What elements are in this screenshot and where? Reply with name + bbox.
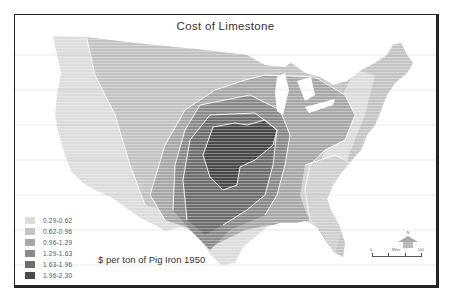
us-map-regions (15, 15, 436, 285)
legend-swatch (25, 239, 35, 246)
legend-swatch (25, 228, 35, 235)
legend-swatch (25, 250, 35, 257)
map-title: Cost of Limestone (15, 20, 436, 32)
legend-swatch (25, 261, 35, 268)
legend-item: 1.63-1.96 (25, 259, 72, 269)
legend-item: 1.29-1.63 (25, 248, 72, 258)
legend-label: 0.96-1.29 (43, 239, 72, 246)
legend-item: 0.29-0.62 (25, 215, 72, 225)
compass-label: N (407, 230, 410, 235)
map-frame: Cost of Limestone 0.29-0.62 0.62-0.96 0.… (14, 14, 439, 288)
legend-swatch (25, 217, 35, 224)
legend-label: 0.29-0.62 (43, 217, 72, 224)
scale-bar: 0 Miles 500 (372, 250, 424, 260)
scale-start-label: 0 (370, 248, 372, 252)
legend-item: 0.62-0.96 (25, 226, 72, 236)
scale-mid-label: Miles (392, 248, 400, 252)
scale-end-label: 500 (418, 248, 424, 252)
legend-label: 0.62-0.96 (43, 228, 72, 235)
legend-label: 1.63-1.96 (43, 261, 72, 268)
legend-label: 1.29-1.63 (43, 250, 72, 257)
north-arrow-icon: N (393, 230, 423, 250)
legend-item: 1.96-2.30 (25, 270, 72, 280)
choropleth-map (15, 15, 436, 285)
map-caption: $ per ton of Pig Iron 1950 (98, 254, 205, 265)
legend-swatch (25, 272, 35, 279)
legend-label: 1.96-2.30 (43, 272, 72, 279)
scale-line (372, 256, 422, 257)
legend-item: 0.96-1.29 (25, 237, 72, 247)
